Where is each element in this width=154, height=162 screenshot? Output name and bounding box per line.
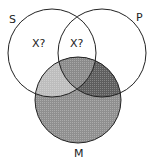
label-s: S: [9, 14, 16, 25]
mark-s-p: X?: [70, 38, 83, 49]
mark-s-only: X?: [32, 38, 45, 49]
label-p: P: [136, 12, 143, 23]
venn-svg: [0, 0, 154, 162]
label-m: M: [74, 148, 84, 159]
venn-diagram: S P M X? X?: [0, 0, 154, 162]
